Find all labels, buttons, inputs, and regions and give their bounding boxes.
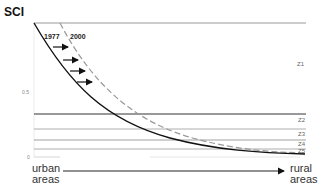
- curve-1977: [34, 23, 305, 154]
- year-2000-label: 2000: [70, 33, 86, 40]
- tick-0: 0: [27, 154, 30, 160]
- zone-z3-label: Z3: [298, 131, 305, 137]
- rural-label-2: areas: [290, 174, 318, 185]
- tick-0-5: 0.5: [22, 89, 29, 95]
- y-axis-label: SCI: [4, 5, 24, 19]
- urban-label-2: areas: [32, 174, 60, 185]
- zone-z1-label: Z1: [297, 61, 304, 67]
- zone-z4-label: Z4: [298, 141, 305, 147]
- year-1977-label: 1977: [44, 33, 60, 40]
- zone-z5-label: Z5: [298, 148, 305, 154]
- curve-2000: [60, 23, 305, 153]
- zone-z2-label: Z2: [298, 117, 305, 123]
